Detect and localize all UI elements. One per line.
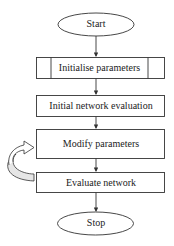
init-node-label: Initialise parameters <box>51 63 148 73</box>
start-node-label: Start <box>58 19 134 29</box>
initial-eval-node-label: Initial network evaluation <box>37 101 165 111</box>
modify-node-label: Modify parameters <box>37 139 165 149</box>
loop-arrow-icon <box>8 141 34 181</box>
flowchart-canvas <box>0 0 174 246</box>
stop-node-label: Stop <box>58 218 134 228</box>
evaluate-node-label: Evaluate network <box>37 178 165 188</box>
